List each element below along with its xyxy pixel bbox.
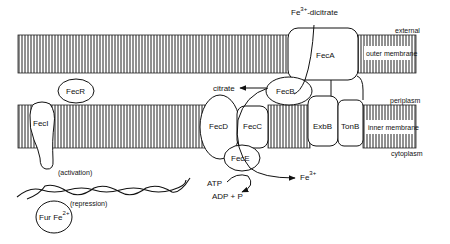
fece-label: FecE	[231, 154, 250, 163]
activation-label: (activation)	[58, 169, 92, 177]
repression-label: (repression)	[70, 200, 107, 208]
cytoplasm-label: cytoplasm	[391, 150, 423, 158]
fecr-label: FecR	[66, 87, 85, 96]
fur-fe-repressor: Fur Fe2+	[36, 201, 72, 233]
fecd-label: FecD	[209, 122, 228, 131]
feci-label: FecI	[33, 119, 49, 128]
feci-protein: FecI	[30, 102, 55, 169]
tonb-label: TonB	[341, 122, 359, 131]
periplasm-label: periplasm	[390, 97, 421, 105]
inner-membrane-label: inner membrane	[368, 124, 419, 131]
fecb-label: FecB	[276, 87, 295, 96]
exbb-protein: ExbB	[308, 96, 338, 146]
citrate-label: citrate	[213, 84, 235, 93]
fecc-protein: FecC	[237, 106, 268, 148]
fece-protein: FecE	[224, 145, 260, 171]
tonb-link	[357, 76, 363, 100]
fecr-protein: FecR	[58, 79, 94, 103]
fe3-product-label: Fe3+	[300, 170, 317, 182]
fe-dicitrate-label: Fe3+-dicitrate	[291, 6, 338, 17]
feca-protein: FecA	[288, 28, 358, 80]
atp-hydrolysis-arrow	[227, 175, 251, 192]
diagram-canvas: FecA ExbB TonB FecD FecC FecE FecB Fe3+-…	[0, 0, 450, 244]
tonb-protein: TonB	[338, 100, 363, 146]
fecb-protein: FecB	[266, 77, 312, 105]
fecc-label: FecC	[243, 122, 262, 131]
exbb-label: ExbB	[313, 122, 332, 131]
atp-label: ATP	[207, 179, 222, 188]
dna-helix	[17, 178, 190, 199]
adp-p-label: ADP + P	[212, 192, 243, 201]
feca-label: FecA	[316, 51, 335, 60]
external-label: external	[395, 27, 420, 34]
outer-membrane-label: outer membrane	[366, 50, 417, 57]
